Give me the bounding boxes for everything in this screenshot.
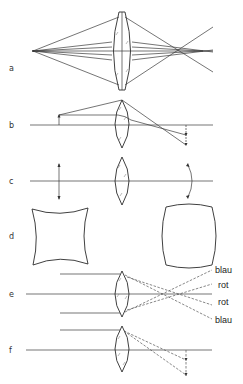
lens-b [115,100,129,148]
panel-label-b: b [9,121,14,130]
color-label-blau-top: blau [215,265,232,275]
panel-label-a: a [9,64,14,73]
lens-f [115,326,129,372]
color-label-rot-top: rot [218,280,229,290]
panel-a: a [9,12,213,90]
panel-label-d: d [9,232,14,241]
panel-label-e: e [9,290,14,299]
lens-aberration-diagram: a b [0,0,243,384]
panel-label-c: c [9,177,13,186]
panel-f: f [9,326,212,376]
panel-e: e blau rot rot blau [9,265,232,325]
panel-d: d [9,204,216,268]
panel-b: b [9,100,213,148]
panel-label-f: f [9,346,12,355]
barrel-shape [162,204,216,268]
panel-c: c [9,157,213,205]
color-label-rot-bottom: rot [218,297,229,307]
pincushion-shape [32,208,88,265]
color-label-blau-bottom: blau [215,315,232,325]
